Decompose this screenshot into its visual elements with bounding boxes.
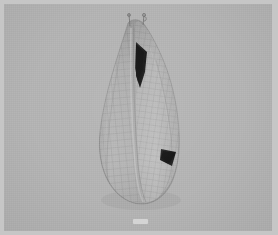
cloth-mesh-svg — [4, 4, 272, 231]
cloth-mesh[interactable] — [4, 4, 272, 231]
3d-viewport[interactable] — [4, 4, 272, 231]
pin-handle-icon[interactable] — [128, 14, 131, 17]
cloth-body — [84, 14, 204, 214]
application-window — [0, 0, 278, 235]
